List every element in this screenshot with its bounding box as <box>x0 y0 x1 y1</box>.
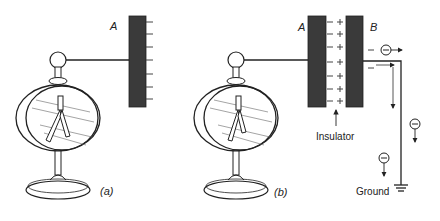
electroscope-knob <box>50 52 66 68</box>
electroscope-base <box>204 181 268 199</box>
plate-b-label: B <box>370 21 377 33</box>
electroscope-knob <box>228 52 244 68</box>
electroscope-capacitor-diagram: A (a) <box>0 0 440 221</box>
ground-wire <box>363 61 401 185</box>
insulator-label: Insulator <box>316 131 355 142</box>
caption-a: (a) <box>100 185 114 197</box>
plate-a <box>129 16 146 107</box>
gap-charges <box>327 19 343 104</box>
plate-a-label-b: A <box>297 21 305 33</box>
plate-a-charges <box>146 22 153 99</box>
panel-a: A (a) <box>16 16 153 199</box>
electron-icon <box>381 45 402 55</box>
electroscope-a <box>16 52 100 199</box>
plate-a-label: A <box>109 20 117 32</box>
plate-b <box>346 16 363 107</box>
electroscope-leaf <box>228 110 239 141</box>
electroscope-leaf <box>238 110 246 133</box>
electroscope-b <box>194 52 278 199</box>
panel-b: Insulator A B <box>194 16 420 199</box>
plate-a-b <box>308 16 326 107</box>
ground-label: Ground <box>356 186 389 197</box>
electroscope-leaf <box>60 110 70 137</box>
electron-icon <box>379 153 389 176</box>
caption-b: (b) <box>274 186 288 198</box>
ground-icon <box>394 185 408 191</box>
electron-icon <box>410 119 420 142</box>
electroscope-base <box>26 181 90 199</box>
